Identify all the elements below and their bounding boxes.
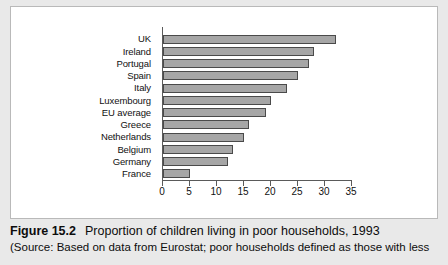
caption-source-text: (Source: Based on data from Eurostat; po… — [10, 240, 446, 254]
category-label: EU average — [39, 107, 155, 119]
plot-area — [162, 27, 352, 180]
x-tick-label: 35 — [345, 187, 356, 197]
caption-line-one: Figure 15.2Proportion of children living… — [10, 224, 446, 239]
category-axis-labels: UKIrelandPortugalSpainItalyLuxembourgEU … — [39, 33, 155, 180]
caption-figure-number: Figure 15.2 — [10, 224, 76, 238]
category-label: Germany — [39, 156, 155, 168]
category-label: Netherlands — [39, 131, 155, 143]
bar-chart: UKIrelandPortugalSpainItalyLuxembourgEU … — [11, 7, 437, 218]
bar-row — [163, 119, 352, 131]
category-label: Ireland — [39, 45, 155, 57]
category-label: UK — [39, 33, 155, 45]
caption-title-text: Proportion of children living in poor ho… — [85, 224, 380, 238]
bar-row — [163, 45, 352, 57]
x-tick-label: 30 — [318, 187, 329, 197]
bar-row — [163, 70, 352, 82]
bar — [163, 169, 190, 178]
bar-row — [163, 33, 352, 45]
bar — [163, 84, 287, 93]
bar — [163, 157, 228, 166]
x-tick-label: 0 — [159, 187, 165, 197]
bar-series — [163, 33, 352, 180]
bar-row — [163, 107, 352, 119]
category-label: Belgium — [39, 143, 155, 155]
bar-row — [163, 82, 352, 94]
category-label: Italy — [39, 82, 155, 94]
bar — [163, 96, 271, 105]
bar-row — [163, 156, 352, 168]
category-label: Spain — [39, 70, 155, 82]
x-tick-label: 25 — [291, 187, 302, 197]
bar — [163, 120, 249, 129]
x-tick-label: 20 — [264, 187, 275, 197]
category-label: Portugal — [39, 58, 155, 70]
category-label: Luxembourg — [39, 94, 155, 106]
figure-panel: UKIrelandPortugalSpainItalyLuxembourgEU … — [10, 6, 438, 219]
bar-row — [163, 143, 352, 155]
bar — [163, 35, 336, 44]
bar — [163, 47, 314, 56]
x-tick-label: 15 — [237, 187, 248, 197]
bar — [163, 133, 244, 142]
figure-caption: Figure 15.2Proportion of children living… — [10, 224, 446, 254]
x-axis-tick-labels: 05101520253035 — [162, 187, 352, 201]
category-label: France — [39, 168, 155, 180]
bar-row — [163, 94, 352, 106]
page-background: UKIrelandPortugalSpainItalyLuxembourgEU … — [0, 0, 448, 265]
bar — [163, 59, 309, 68]
category-label: Greece — [39, 119, 155, 131]
bar — [163, 108, 266, 117]
bar — [163, 71, 298, 80]
bar-row — [163, 58, 352, 70]
bar — [163, 145, 233, 154]
x-tick-label: 5 — [186, 187, 192, 197]
bar-row — [163, 168, 352, 180]
bar-row — [163, 131, 352, 143]
x-tick-label: 10 — [210, 187, 221, 197]
